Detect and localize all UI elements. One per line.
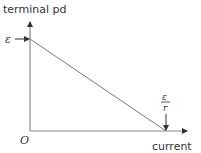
x-axis-label: current (152, 140, 192, 153)
y-axis-label: terminal pd (3, 3, 66, 16)
x-intercept-numerator: ε (162, 92, 167, 102)
terminal-pd-vs-current-graph: terminal pd current ε O ε r (0, 0, 201, 153)
y-intercept-label: ε (5, 33, 11, 46)
origin-label: O (20, 134, 29, 147)
x-intercept-denominator: r (163, 103, 168, 113)
graph-line (30, 39, 166, 131)
